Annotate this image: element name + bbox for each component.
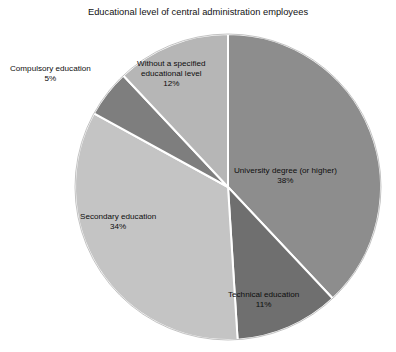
pie-chart-figure: Educational level of central administrat… bbox=[0, 0, 396, 352]
slice-label-text: Without a specified bbox=[137, 59, 206, 68]
slice-label-percent: 34% bbox=[80, 222, 156, 232]
slice-label-percent: 12% bbox=[137, 79, 206, 89]
slice-label-percent: 11% bbox=[228, 300, 299, 310]
slice-label-percent: 5% bbox=[10, 74, 91, 84]
slice-label-secondary-education: Secondary education 34% bbox=[80, 212, 156, 232]
slice-label-text: Technical education bbox=[228, 290, 299, 299]
slice-label-percent: 38% bbox=[234, 176, 337, 186]
slice-label-compulsory-education: Compulsory education 5% bbox=[10, 64, 91, 84]
slice-label-text: University degree (or higher) bbox=[234, 166, 337, 175]
slice-label-text: Compulsory education bbox=[10, 64, 91, 73]
slice-label-without-specified-level: Without a specified educational level 12… bbox=[137, 59, 206, 90]
slice-label-text-line2: educational level bbox=[137, 69, 206, 79]
slice-label-university-degree: University degree (or higher) 38% bbox=[234, 166, 337, 186]
slice-label-technical-education: Technical education 11% bbox=[228, 290, 299, 310]
slice-label-text: Secondary education bbox=[80, 212, 156, 221]
